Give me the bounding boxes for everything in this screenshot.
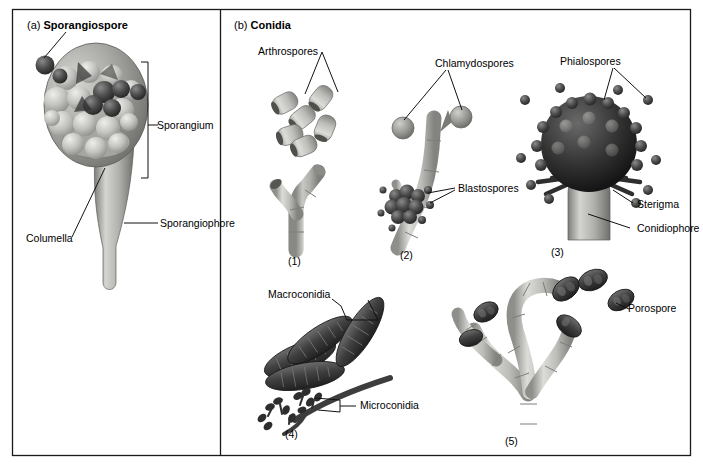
label-sporangium: Sporangium: [157, 120, 214, 131]
structure-number-4: (4): [285, 429, 298, 440]
panel-b-tag-text: (b): [234, 19, 247, 31]
label-porospore: Porospore: [628, 303, 676, 314]
panel-b-title: Conidia: [251, 19, 291, 31]
structure-number-1: (1): [288, 256, 301, 267]
label-sterigma: Sterigma: [637, 199, 679, 210]
figure-artwork: [0, 0, 703, 475]
label-phialospores: Phialospores: [560, 56, 621, 67]
label-columella: Columella: [26, 233, 73, 244]
label-conidiophore: Conidiophore: [637, 223, 699, 234]
panel-a-tag-text: (a): [27, 19, 40, 31]
label-sporangiophore: Sporangiophore: [160, 218, 235, 229]
figure-container: (a) Sporangiospore Sporangium Sporangiop…: [0, 0, 703, 475]
label-arthrospores: Arthrospores: [258, 46, 318, 57]
label-microconidia: Microconidia: [360, 400, 419, 411]
label-blastospores: Blastospores: [458, 183, 519, 194]
panel-a-tag: (a) Sporangiospore: [27, 20, 128, 31]
panel-b-tag: (b) Conidia: [234, 20, 291, 31]
label-chlamydospores: Chlamydospores: [435, 58, 514, 69]
structure-number-3: (3): [551, 247, 564, 258]
label-macroconidia: Macroconidia: [268, 289, 330, 300]
structure-number-5: (5): [505, 436, 518, 447]
structure-number-2: (2): [400, 250, 413, 261]
panel-a-title: Sporangiospore: [44, 19, 128, 31]
